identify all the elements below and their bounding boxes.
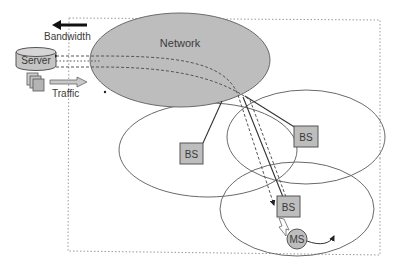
bandwidth-label: Bandwidth [44,31,91,42]
traffic-documents-icon [27,73,44,91]
bs3-label: BS [282,202,296,213]
link-network-bs1 [203,101,222,143]
bandwidth-arrowhead [52,20,61,30]
ms-label: MS [290,234,305,245]
small-dot [104,91,106,93]
network-label: Network [160,37,201,49]
bs2-label: BS [299,132,313,143]
link-network-bs2 [245,96,296,128]
mobility-arrow [307,236,334,244]
link-network-bs3 [243,97,283,197]
traffic-label: Traffic [52,88,79,99]
bs1-label: BS [185,149,199,160]
server-label: Server [21,55,51,66]
cell-left [119,103,297,197]
wireless-link-icon [279,218,289,236]
network-diagram: Network BS BS BS MS Bandwidth Server Tra… [0,0,393,265]
network-cloud [90,13,270,107]
